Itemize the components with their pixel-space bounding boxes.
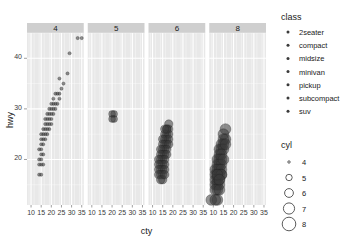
data-point (40, 153, 43, 156)
data-point (54, 92, 57, 95)
data-point (46, 112, 49, 115)
data-point (58, 97, 61, 100)
data-point (40, 138, 43, 141)
data-point (40, 143, 43, 146)
class-legend-item-label[interactable]: suv (299, 107, 311, 116)
data-point (214, 184, 225, 195)
data-point (214, 174, 225, 185)
cyl-legend-key (285, 189, 294, 198)
cyl-legend-key (283, 203, 294, 214)
class-legend-key (287, 31, 290, 34)
data-point (68, 52, 71, 55)
class-legend-key (287, 83, 290, 86)
cyl-legend-item-label[interactable]: 4 (302, 158, 306, 167)
data-point (109, 116, 116, 123)
data-point (44, 122, 47, 125)
class-legend-key (287, 44, 290, 47)
cyl-legend-key (286, 174, 292, 180)
y-axis-tick-label: 30 (6, 104, 22, 111)
cyl-legend-key (288, 161, 290, 163)
data-point (40, 173, 43, 176)
x-axis-title: cty (27, 226, 266, 236)
cyl-legend-key (282, 217, 296, 231)
data-point (76, 36, 79, 39)
facet-strip-label: 5 (88, 24, 145, 33)
class-legend-item-label[interactable]: midsize (299, 54, 324, 63)
data-point (44, 117, 47, 120)
data-point (48, 107, 51, 110)
data-point (220, 139, 231, 150)
cyl-legend-item-label[interactable]: 5 (302, 174, 306, 183)
class-legend-item-label[interactable]: subcompact (299, 94, 339, 103)
x-axis-tick-label: 35 (255, 209, 273, 216)
data-point (161, 170, 169, 178)
cyl-legend-item-label[interactable]: 8 (302, 220, 306, 229)
data-point (80, 36, 83, 39)
data-point (40, 133, 43, 136)
class-legend-item-label[interactable]: pickup (299, 81, 321, 90)
facet-strip-label: 8 (209, 24, 266, 33)
data-point (66, 72, 69, 75)
cyl-legend-item-label[interactable]: 7 (302, 205, 306, 214)
data-point (60, 87, 63, 90)
class-legend-key (287, 70, 290, 73)
class-legend-item-label[interactable]: minivan (299, 68, 325, 77)
class-legend-item-label[interactable]: compact (299, 41, 327, 50)
data-point (218, 154, 229, 165)
y-axis-title: hwy (5, 112, 15, 128)
class-legend-key (287, 110, 290, 113)
data-point (62, 82, 65, 85)
data-point (40, 158, 43, 161)
facet-strip-label: 4 (27, 24, 84, 33)
data-point (42, 128, 45, 131)
y-axis-tick-label: 20 (6, 154, 22, 161)
class-legend-title: class (281, 12, 302, 22)
data-point (42, 163, 45, 166)
data-point (38, 148, 41, 151)
y-axis-tick-label: 40 (6, 53, 22, 60)
class-legend-key (287, 57, 290, 60)
cyl-legend-title: cyl (281, 140, 292, 150)
data-point (210, 195, 221, 206)
data-point (52, 97, 55, 100)
data-point (50, 102, 53, 105)
data-point (161, 125, 169, 133)
data-point (58, 77, 61, 80)
class-legend-item-label[interactable]: 2seater (299, 28, 324, 37)
cyl-legend-item-label[interactable]: 6 (302, 189, 306, 198)
facet-strip-label: 6 (149, 24, 206, 33)
class-legend-key (287, 97, 290, 100)
